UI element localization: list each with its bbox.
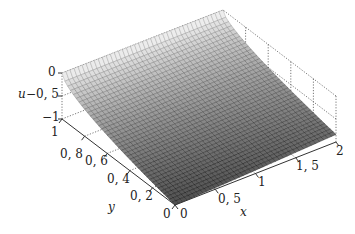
y-axis-label: y [108, 201, 115, 213]
x-tick-2: 2 [336, 145, 344, 157]
z-tick-neg-1: −1 [42, 111, 60, 123]
y-tick [172, 205, 175, 209]
chart-container: 0 −0, 5 −1 u 1 0, 8 0, 6 0, 4 0, 2 0 y 0… [0, 0, 355, 234]
z-tick-0: 0 [48, 66, 56, 78]
y-tick [82, 136, 85, 140]
x-axis-label: x [240, 206, 247, 218]
z-axis-label: u [18, 88, 26, 100]
y-tick-0-6: 0, 6 [85, 155, 108, 167]
x-tick-1-5: 1, 5 [296, 160, 319, 172]
x-tick-0: 0 [180, 208, 188, 220]
y-tick-0-2: 0, 2 [130, 190, 153, 202]
y-tick-0: 0 [163, 208, 171, 220]
x-tick [175, 205, 178, 209]
z-tick-neg-0-5: −0, 5 [26, 88, 59, 100]
x-tick-0-5: 0, 5 [218, 193, 241, 205]
y-tick-1: 1 [51, 126, 59, 138]
y-tick-0-4: 0, 4 [107, 173, 130, 185]
x-tick-1: 1 [258, 176, 266, 188]
y-tick-0-8: 0, 8 [60, 148, 83, 160]
